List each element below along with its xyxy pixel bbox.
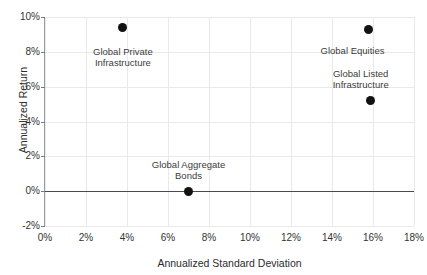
gridline-horizontal bbox=[45, 156, 414, 157]
gridline-horizontal bbox=[45, 226, 414, 227]
x-axis-tick-label: 8% bbox=[202, 232, 216, 244]
y-axis-tick-mark bbox=[41, 156, 45, 157]
y-axis-tick-mark bbox=[41, 87, 45, 88]
data-point-label: Global Aggregate Bonds bbox=[152, 159, 225, 182]
y-axis-tick-mark bbox=[41, 52, 45, 53]
y-axis-tick-mark bbox=[41, 17, 45, 18]
x-axis-tick-label: 10% bbox=[240, 232, 260, 244]
scatter-chart-figure: -2%0%2%4%6%8%10% Annualized Return Annua… bbox=[0, 0, 427, 275]
zero-reference-line bbox=[45, 191, 414, 192]
y-axis-tick-mark bbox=[41, 122, 45, 123]
y-axis-tick-label: 10% bbox=[20, 11, 40, 23]
x-axis-tick-label: 0% bbox=[38, 232, 52, 244]
x-axis-title: Annualized Standard Deviation bbox=[45, 257, 414, 269]
x-axis-tick-label: 6% bbox=[161, 232, 175, 244]
x-axis-tick-label: 2% bbox=[79, 232, 93, 244]
y-axis-tick-mark bbox=[41, 226, 45, 227]
x-axis-tick-label: 14% bbox=[322, 232, 342, 244]
x-axis-tick-label: 4% bbox=[120, 232, 134, 244]
x-axis-tick-label: 18% bbox=[404, 232, 424, 244]
data-point-label: Global Equities bbox=[321, 45, 385, 57]
x-axis-tick-label: 16% bbox=[363, 232, 383, 244]
x-axis-tick-label: 12% bbox=[281, 232, 301, 244]
data-point[interactable] bbox=[184, 187, 193, 196]
y-axis-tick-mark bbox=[41, 191, 45, 192]
y-axis-tick-label: 0% bbox=[26, 185, 40, 197]
gridline-vertical bbox=[414, 17, 415, 226]
data-point-label: Global Listed Infrastructure bbox=[333, 68, 389, 91]
y-axis-title: Annualized Return bbox=[17, 35, 29, 185]
gridline-horizontal bbox=[45, 122, 414, 123]
data-point-label: Global Private Infrastructure bbox=[93, 46, 153, 69]
y-axis-tick-label: -2% bbox=[22, 220, 40, 232]
gridline-horizontal bbox=[45, 17, 414, 18]
